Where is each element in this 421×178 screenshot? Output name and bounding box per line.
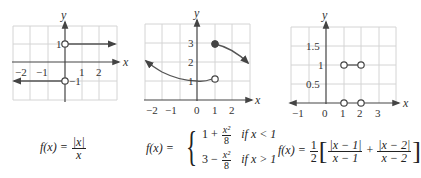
half-fraction: 1 2 [310, 139, 318, 164]
graph-1-x-tick: 2 [96, 66, 102, 78]
graph-2-y-label: y [193, 6, 200, 20]
graph-1-open-point-upper [62, 41, 68, 47]
formula-lhs: f(x) = [278, 143, 306, 157]
left-brace: { [186, 122, 197, 170]
graph-2-open-point [212, 76, 218, 82]
graph-3-open-point [341, 62, 347, 68]
graph-3-x-tick: 0 [322, 107, 328, 119]
graph-2-x-tick: −1 [165, 104, 177, 116]
graph-2-y-tick: 3 [188, 37, 194, 49]
fraction: |x| x [72, 136, 86, 161]
graph-2-x-tick: 1 [212, 104, 218, 116]
term-2-fraction: |x − 2| x − 2 [377, 139, 411, 164]
graph-2-x-tick: 0 [194, 104, 200, 116]
graph-2-closed-point [212, 41, 219, 48]
graph-3-x-tick: 1 [340, 107, 346, 119]
case-1: 1 + x² 8 if x < 1 [202, 125, 276, 146]
graph-3-open-point [341, 100, 347, 106]
graph-3-y-tick: 1 [318, 59, 324, 71]
graph-3-open-point [358, 100, 364, 106]
formula-lhs: f(x) = [146, 141, 174, 156]
graph-3-x-tick: −1 [292, 107, 304, 119]
graph-2-formula: f(x) = { 1 + x² 8 if x < 1 3 − x² 8 if x… [146, 124, 276, 174]
graph-3-y-label: y [321, 8, 328, 22]
graph-3-y-tick: 0.5 [306, 78, 320, 90]
graph-2-x-tick: 2 [229, 104, 235, 116]
graph-2-left-branch [146, 61, 212, 81]
case-2: 3 − x² 8 if x > 1 [202, 150, 276, 171]
graph-3-x-tick: 3 [375, 107, 381, 119]
graph-1-x-tick: −1 [36, 66, 48, 78]
graph-1: y x −2 −1 1 2 1 −1 [12, 8, 129, 102]
graph-2-x-label: x [254, 93, 261, 107]
graph-3-formula: f(x) = 1 2 [ |x − 1| x − 1 + |x − 2| x −… [278, 136, 421, 166]
graph-2-y-tick: 2 [188, 56, 194, 68]
graph-2-x-tick: −2 [146, 104, 158, 116]
right-bracket: ] [412, 136, 421, 165]
plus-sign: + [366, 143, 373, 157]
term-1-fraction: |x − 1| x − 1 [328, 139, 362, 164]
graph-1-x-tick: −2 [15, 66, 27, 78]
graph-1-formula: f(x) = |x| x [40, 136, 87, 161]
graph-1-y-tick: −1 [69, 75, 81, 87]
graph-1-open-point-lower [62, 78, 68, 84]
graph-3-x-tick: 2 [357, 107, 363, 119]
graph-1-y-tick: 1 [56, 38, 62, 50]
graph-3-open-point [358, 62, 364, 68]
left-bracket: [ [319, 136, 328, 165]
graph-3-x-label: x [402, 96, 409, 110]
graph-1-x-label: x [122, 55, 129, 69]
graph-2-y-tick: 1 [188, 75, 194, 87]
graph-2: y x −2 −1 0 1 2 1 2 3 [144, 6, 261, 116]
formula-lhs: f(x) = [40, 140, 68, 154]
denominator: x [72, 149, 86, 161]
graph-3-y-tick: 1.5 [306, 40, 320, 52]
graph-1-y-label: y [60, 8, 67, 22]
graph-3: y x −1 0 1 2 3 0.5 1 1.5 [290, 8, 409, 119]
